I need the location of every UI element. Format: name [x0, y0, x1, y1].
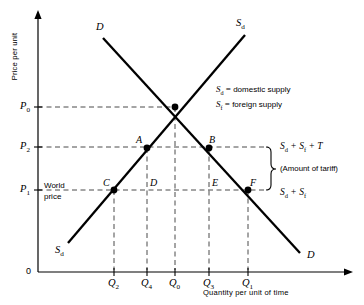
price-tick-p1: P1 — [20, 183, 30, 197]
price-tick-p0-sub: 0 — [26, 106, 30, 114]
world-price-note-line1: World — [44, 181, 65, 190]
point-label-e: E — [212, 177, 218, 188]
demand-curve — [103, 38, 300, 253]
legend-symbol-sf-sub: f — [221, 105, 223, 111]
annotation-sd-sf: Sd + Sf — [280, 187, 306, 199]
marked-points — [111, 104, 252, 194]
annotation-sd-sf-t: Sd + Sf + T — [280, 141, 323, 153]
quantity-tick-q2-base: Q — [108, 277, 116, 288]
quantity-tick-q0-base: Q — [169, 277, 177, 288]
legend-equals-0: = — [226, 84, 231, 94]
quantity-tick-q3: Q3 — [203, 277, 214, 291]
legend-symbol-sf: Sf — [216, 99, 223, 109]
demand-curve-label-top: D — [96, 21, 104, 32]
tariff-brace — [266, 147, 276, 190]
point-label-d: D — [150, 177, 157, 188]
legend-text-domestic: domestic supply — [233, 85, 290, 94]
point-label-f: F — [250, 177, 256, 188]
quantity-tick-q2-sub: 2 — [116, 283, 120, 291]
legend-item-foreign-supply: Sf = foreign supply — [216, 99, 282, 111]
point-c — [111, 187, 118, 194]
supply-curve — [68, 35, 245, 243]
legend-symbol-sd-sub: d — [221, 90, 224, 96]
quantity-tick-q4-sub: 4 — [149, 283, 153, 291]
quantity-tick-q4: Q4 — [141, 277, 152, 291]
price-tick-p2: P2 — [20, 140, 30, 154]
quantity-tick-q1-sub: 1 — [250, 283, 254, 291]
supply-curve-label-bottom-sub: d — [60, 250, 64, 258]
quantity-tick-q1-base: Q — [242, 277, 250, 288]
y-axis-label: Price per unit — [10, 17, 19, 97]
legend-item-domestic-supply: Sd = domestic supply — [216, 84, 291, 96]
point-b — [206, 145, 213, 152]
world-price-note-line2: price — [44, 192, 61, 201]
supply-curve-label-top: Sd — [236, 17, 245, 31]
origin-label: 0 — [26, 266, 31, 276]
quantity-tick-q1: Q1 — [242, 277, 253, 291]
legend-equals-1: = — [225, 99, 230, 109]
annotation-amount-of-tariff: (Amount of tariff) — [280, 164, 338, 173]
point-label-b: B — [209, 134, 215, 145]
price-tick-p1-sub: 1 — [26, 189, 30, 197]
point-label-c: C — [103, 177, 110, 188]
x-axis-arrow — [344, 268, 353, 275]
quantity-tick-q3-sub: 3 — [211, 283, 215, 291]
legend-text-foreign: foreign supply — [232, 100, 282, 109]
price-tick-p2-sub: 2 — [26, 146, 30, 154]
demand-curve-label-bottom: D — [307, 249, 315, 260]
quantity-tick-q0-sub: 0 — [177, 283, 181, 291]
point-a — [144, 145, 151, 152]
price-tick-p0: P0 — [20, 100, 30, 114]
quantity-tick-q4-base: Q — [141, 277, 149, 288]
quantity-tick-q3-base: Q — [203, 277, 211, 288]
supply-curve-label-top-sub: d — [241, 23, 245, 31]
y-axis-arrow — [34, 10, 41, 19]
point-label-a: A — [136, 134, 142, 145]
vertical-reference-lines — [114, 107, 248, 270]
legend-symbol-sd: Sd — [216, 84, 224, 94]
supply-curve-label-bottom: Sd — [55, 244, 64, 258]
point-equilibrium — [172, 104, 179, 111]
quantity-tick-q0: Q0 — [169, 277, 180, 291]
quantity-tick-q2: Q2 — [108, 277, 119, 291]
tariff-diagram: Price per unit Quantity per unit of time… — [0, 0, 364, 305]
